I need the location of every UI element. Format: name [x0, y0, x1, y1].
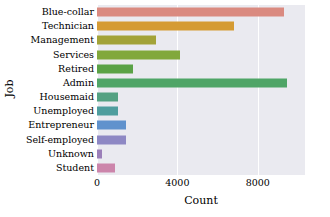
- bar-admin[interactable]: [97, 78, 287, 87]
- bar-unknown[interactable]: [97, 149, 102, 158]
- y-tick-label-services: Services: [0, 50, 94, 60]
- bar-row: [97, 104, 305, 118]
- bar-row: [97, 76, 305, 90]
- x-tick-label-4000: 4000: [165, 178, 189, 188]
- bar-unemployed[interactable]: [97, 107, 118, 116]
- x-tick-label-0: 0: [94, 178, 100, 188]
- bar-row: [97, 147, 305, 161]
- bars-layer: [97, 5, 305, 175]
- bar-row: [97, 133, 305, 147]
- bar-housemaid[interactable]: [97, 93, 118, 102]
- bar-services[interactable]: [97, 50, 180, 59]
- bar-blue-collar[interactable]: [97, 8, 284, 17]
- bar-entrepreneur[interactable]: [97, 121, 126, 130]
- y-tick-label-management: Management: [0, 36, 94, 46]
- plot-area: [97, 5, 305, 175]
- x-tick-label-8000: 8000: [246, 178, 270, 188]
- y-tick-label-blue-collar: Blue-collar: [0, 7, 94, 17]
- bar-management[interactable]: [97, 36, 156, 45]
- bar-row: [97, 33, 305, 47]
- bar-row: [97, 118, 305, 132]
- bar-student[interactable]: [97, 163, 115, 172]
- bar-row: [97, 161, 305, 175]
- bar-row: [97, 90, 305, 104]
- bar-row: [97, 62, 305, 76]
- y-tick-label-self-employed: Self-employed: [0, 135, 94, 145]
- y-tick-label-technician: Technician: [0, 22, 94, 32]
- y-tick-label-student: Student: [0, 163, 94, 173]
- bar-row: [97, 19, 305, 33]
- bar-retired[interactable]: [97, 64, 133, 73]
- x-axis-title: Count: [97, 194, 305, 207]
- bar-self-employed[interactable]: [97, 135, 126, 144]
- y-axis-title: Job: [3, 69, 16, 109]
- y-tick-label-entrepreneur: Entrepreneur: [0, 121, 94, 131]
- bar-technician[interactable]: [97, 22, 234, 31]
- bar-row: [97, 5, 305, 19]
- x-axis-tick-labels: 040008000: [97, 178, 305, 190]
- y-tick-label-unknown: Unknown: [0, 149, 94, 159]
- bar-chart-figure: Blue-collarTechnicianManagementServicesR…: [0, 0, 330, 217]
- bar-row: [97, 48, 305, 62]
